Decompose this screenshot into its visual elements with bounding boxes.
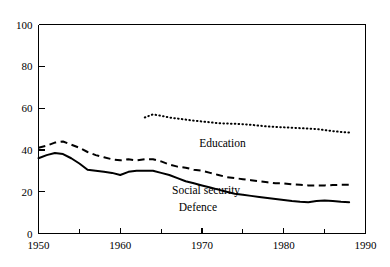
chart-container: 020406080100 19501960197019801990 Educat…: [0, 0, 390, 267]
line-chart: 020406080100 19501960197019801990 Educat…: [0, 0, 390, 267]
y-tick-label-80: 80: [22, 60, 34, 72]
x-axis-tick-labels: 19501960197019801990: [28, 239, 378, 251]
x-tick-label-1960: 1960: [109, 239, 132, 251]
y-tick-label-20: 20: [22, 186, 34, 198]
series-annotations-group: EducationSocial securityDefence: [172, 137, 246, 213]
x-tick-label-1950: 1950: [28, 239, 51, 251]
y-tick-label-40: 40: [22, 144, 34, 156]
y-tick-label-60: 60: [22, 102, 34, 114]
x-tick-label-1980: 1980: [273, 239, 296, 251]
x-tick-label-1990: 1990: [355, 239, 378, 251]
series-annotation-social-security: Social security: [172, 184, 240, 197]
series-line-social-security: [39, 142, 350, 186]
series-annotation-education: Education: [199, 137, 246, 149]
series-annotation-defence: Defence: [179, 201, 217, 213]
x-tick-label-1970: 1970: [191, 239, 214, 251]
y-tick-label-100: 100: [16, 19, 33, 31]
series-line-education: [145, 114, 349, 132]
y-axis-tick-labels: 020406080100: [16, 19, 33, 240]
